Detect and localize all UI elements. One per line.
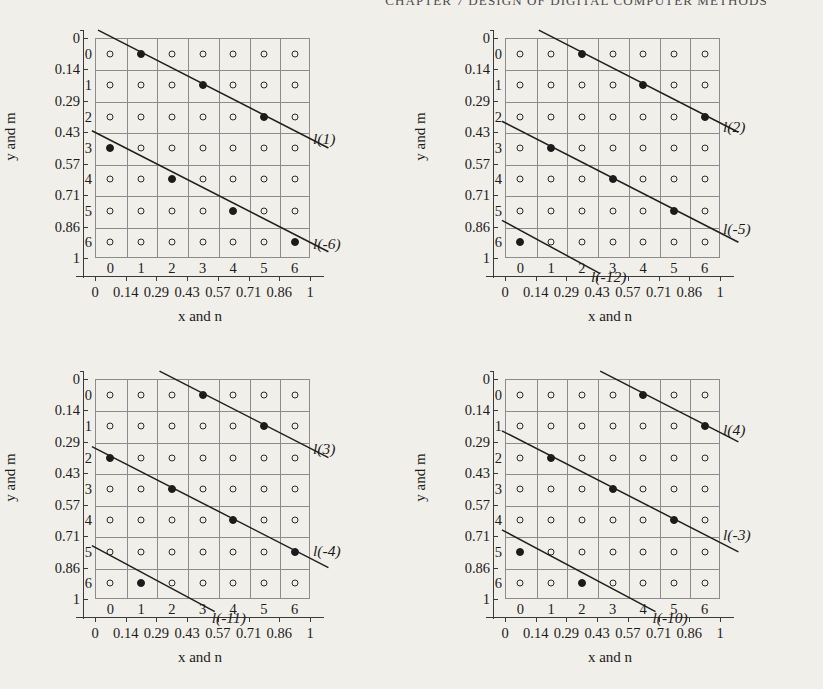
lattice-node <box>578 113 585 120</box>
y-tick-mark <box>83 69 88 70</box>
y-tick-label: 0.86 <box>440 559 490 576</box>
grid-line-vertical <box>567 380 568 598</box>
grid-line-vertical <box>660 39 661 257</box>
lattice-node <box>291 176 298 183</box>
lattice-node <box>640 517 647 524</box>
lattice-node <box>138 454 145 461</box>
lattice-node <box>701 486 708 493</box>
x-tick-label: 0.29 <box>554 284 579 301</box>
lattice-node <box>138 239 145 246</box>
grid-line-vertical <box>280 39 281 257</box>
grid-line-vertical <box>157 39 158 257</box>
x-tick-label: 0.43 <box>584 625 609 642</box>
grid-line-horizontal <box>96 165 309 166</box>
y-tick-mark <box>493 38 498 39</box>
lattice-node <box>199 113 206 120</box>
x-tick-label: 0.57 <box>615 284 640 301</box>
lattice-node-selected <box>516 238 524 246</box>
lattice-node <box>260 239 267 246</box>
x-tick-mark <box>279 276 280 281</box>
x-tick-label: 0.43 <box>584 284 609 301</box>
grid-line-horizontal <box>96 133 309 134</box>
y-tick-mark <box>83 164 88 165</box>
y-tick-label: 0.71 <box>30 187 80 204</box>
y-tick-mark <box>493 195 498 196</box>
lattice-node <box>138 176 145 183</box>
lattice-node <box>609 145 616 152</box>
lattice-node <box>107 50 114 57</box>
lattice-node <box>701 454 708 461</box>
y-tick-mark <box>493 164 498 165</box>
lattice-node <box>640 239 647 246</box>
x-tick-mark <box>249 276 250 281</box>
x-tick-mark <box>720 617 721 622</box>
lattice-node-selected <box>639 391 647 399</box>
lattice-node-selected <box>137 579 145 587</box>
lattice-node <box>517 580 524 587</box>
grid-line-horizontal <box>506 443 719 444</box>
lattice-node <box>517 113 524 120</box>
lattice-node <box>230 113 237 120</box>
y-tick-label: 0.57 <box>440 496 490 513</box>
y-tick-label: 0.29 <box>30 92 80 109</box>
x-tick-label: 0.71 <box>236 284 261 301</box>
m-index-label: 5 <box>85 543 92 560</box>
y-tick-mark <box>83 258 88 259</box>
y-tick-mark <box>493 258 498 259</box>
lattice-node <box>168 50 175 57</box>
lattice-node <box>260 50 267 57</box>
lattice-node <box>260 82 267 89</box>
x-tick-label: 0.71 <box>236 625 261 642</box>
grid-line-vertical <box>598 39 599 257</box>
n-index-label: 1 <box>547 260 554 277</box>
lattice-node <box>670 50 677 57</box>
n-index-label: 4 <box>230 260 237 277</box>
lattice-node <box>548 580 555 587</box>
grid-line-horizontal <box>506 537 719 538</box>
grid-line-horizontal <box>506 569 719 570</box>
lattice-node-selected <box>516 548 524 556</box>
lattice-node <box>291 580 298 587</box>
lattice-node <box>701 82 708 89</box>
y-tick-label: 0.43 <box>440 465 490 482</box>
grid-line-horizontal <box>506 196 719 197</box>
lattice-node <box>199 145 206 152</box>
lattice-node <box>230 548 237 555</box>
x-tick-mark <box>310 617 311 622</box>
x-tick-label: 0.71 <box>646 625 671 642</box>
lattice-node <box>701 145 708 152</box>
grid-line-vertical <box>598 380 599 598</box>
n-index-label: 6 <box>291 601 298 618</box>
y-tick-label: 0.14 <box>440 61 490 78</box>
grid-line-horizontal <box>506 165 719 166</box>
lattice-node <box>609 239 616 246</box>
lattice-node <box>578 239 585 246</box>
lattice-node <box>670 391 677 398</box>
m-index-label: 3 <box>495 481 502 498</box>
n-index-label: 1 <box>137 260 144 277</box>
lattice-node-selected <box>609 485 617 493</box>
x-tick-mark <box>566 617 567 622</box>
x-tick-label: 0.57 <box>205 284 230 301</box>
m-index-label: 1 <box>85 418 92 435</box>
lattice-node <box>260 580 267 587</box>
grid-line-vertical <box>250 39 251 257</box>
x-tick-mark <box>279 617 280 622</box>
lattice-node <box>107 548 114 555</box>
lattice-node <box>291 517 298 524</box>
y-tick-mark <box>83 473 88 474</box>
grid-line-horizontal <box>506 102 719 103</box>
lattice-node <box>138 548 145 555</box>
lattice-node <box>230 391 237 398</box>
lattice-node <box>548 239 555 246</box>
lattice-node <box>578 423 585 430</box>
y-tick-mark <box>493 227 498 228</box>
lattice-node <box>517 454 524 461</box>
x-tick-label: 0.86 <box>677 284 702 301</box>
grid-line-vertical <box>629 380 630 598</box>
n-index-label: 3 <box>609 601 616 618</box>
m-index-label: 4 <box>495 512 502 529</box>
lattice-node <box>168 391 175 398</box>
lattice-node <box>199 517 206 524</box>
x-tick-label: 1 <box>716 625 723 642</box>
